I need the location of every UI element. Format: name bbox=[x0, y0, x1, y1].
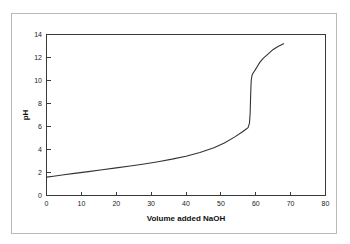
x-tick-label-10: 10 bbox=[78, 200, 86, 207]
y-tick-label-2: 2 bbox=[38, 169, 42, 176]
x-tick-label-60: 60 bbox=[252, 200, 260, 207]
titration-curve-line bbox=[47, 44, 284, 177]
x-tick-label-50: 50 bbox=[217, 200, 225, 207]
x-tick-label-0: 0 bbox=[45, 200, 49, 207]
x-axis-ticks bbox=[47, 192, 326, 196]
x-tick-label-80: 80 bbox=[322, 200, 330, 207]
y-axis-tick-labels: 0 2 4 6 8 10 12 14 bbox=[34, 31, 42, 199]
y-tick-label-8: 8 bbox=[38, 100, 42, 107]
x-axis-tick-labels: 0 10 20 30 40 50 60 70 80 bbox=[45, 200, 330, 207]
y-tick-label-12: 12 bbox=[34, 54, 42, 61]
figure-root: 0 2 4 6 8 10 12 14 0 10 20 30 40 bbox=[0, 0, 350, 244]
y-tick-label-4: 4 bbox=[38, 146, 42, 153]
x-tick-label-30: 30 bbox=[147, 200, 155, 207]
x-axis-title: Volume added NaOH bbox=[147, 214, 226, 223]
titration-chart: 0 2 4 6 8 10 12 14 0 10 20 30 40 bbox=[0, 0, 350, 244]
y-tick-label-14: 14 bbox=[34, 31, 42, 38]
y-tick-label-10: 10 bbox=[34, 77, 42, 84]
x-tick-label-20: 20 bbox=[112, 200, 120, 207]
x-tick-label-40: 40 bbox=[182, 200, 190, 207]
y-axis-title: pH bbox=[21, 109, 30, 120]
y-tick-label-0: 0 bbox=[38, 192, 42, 199]
y-axis-ticks bbox=[47, 35, 51, 196]
y-tick-label-6: 6 bbox=[38, 123, 42, 130]
x-tick-label-70: 70 bbox=[287, 200, 295, 207]
